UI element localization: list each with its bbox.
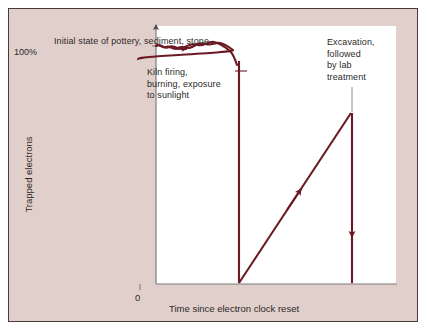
- arrow-plateau: [174, 49, 187, 50]
- x-axis-title: Time since electron clock reset: [169, 303, 299, 314]
- annotation-kiln-firing: Kiln firing, burning, exposure to sunlig…: [147, 67, 221, 102]
- y-axis-tick-label-100: 100%: [14, 47, 37, 57]
- annotation-initial-state: Initial state of pottery, sediment, ston…: [54, 36, 209, 48]
- figure-panel: Initial state of pottery, sediment, ston…: [8, 8, 418, 322]
- annotation-excavation: Excavation, followed by lab treatment: [327, 37, 375, 83]
- arrow-accumulation: [287, 189, 301, 210]
- y-axis-title: Trapped electrons: [23, 120, 34, 230]
- x-axis-tick-label-zero: 0: [135, 292, 140, 303]
